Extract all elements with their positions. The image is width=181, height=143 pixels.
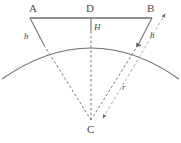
- label-sagitta-h: H: [94, 23, 101, 32]
- label-right-h: h: [150, 31, 155, 40]
- label-point-a: A: [29, 3, 37, 14]
- label-radius-r: r: [122, 83, 126, 92]
- radius-right-dashed-line: [91, 45, 138, 120]
- label-point-d: D: [86, 3, 94, 14]
- geometry-diagram: A D B H h h r C: [0, 0, 181, 143]
- diagram-canvas: [0, 0, 181, 143]
- label-left-h: h: [24, 32, 29, 41]
- label-point-b: B: [147, 3, 154, 14]
- radius-left-dashed-line: [44, 45, 91, 120]
- label-point-c: C: [87, 124, 94, 135]
- radius-arrow-r-line: [103, 14, 165, 118]
- leg-a-to-arc-line: [30, 18, 44, 45]
